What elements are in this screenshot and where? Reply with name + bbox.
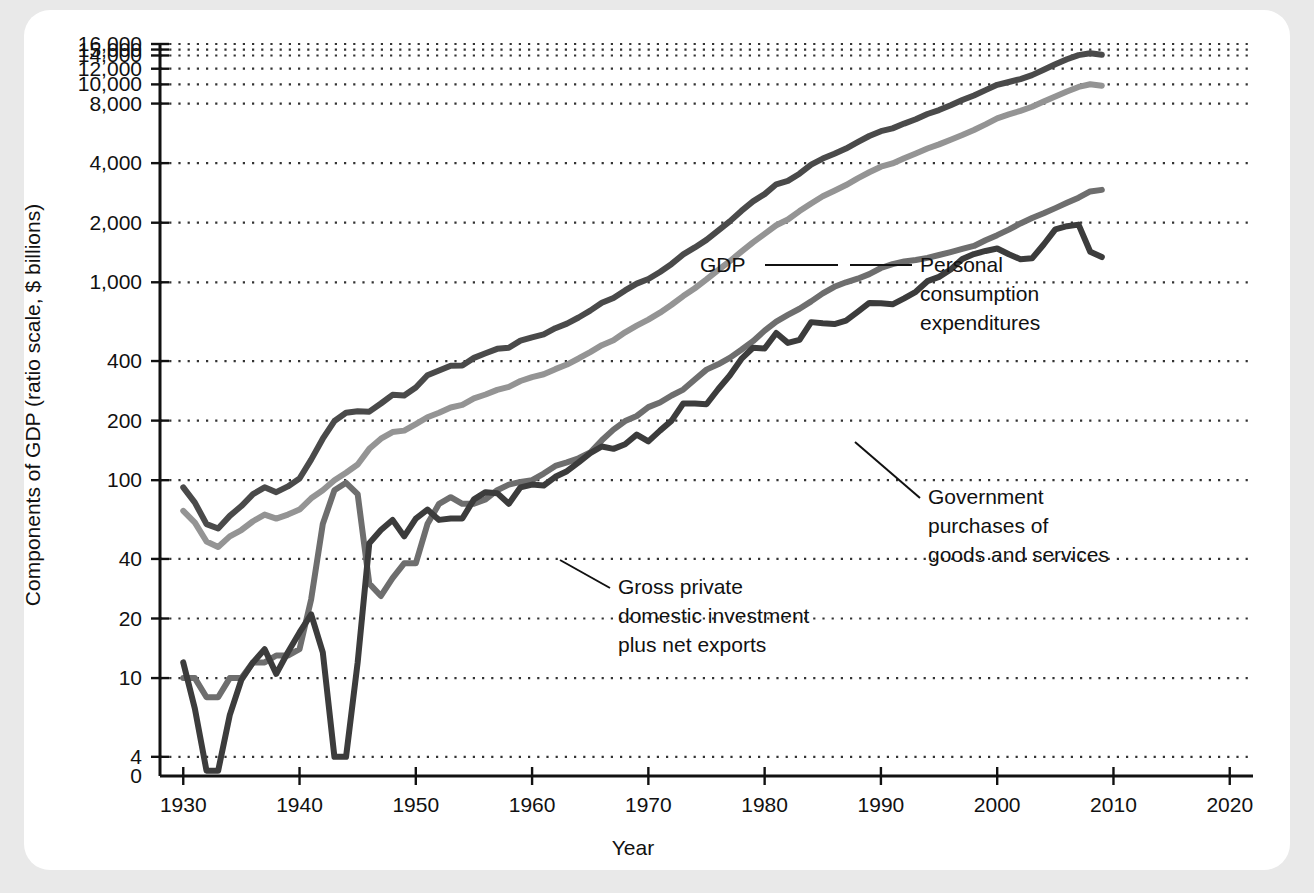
gdp-components-line-chart: 041020401002004001,0002,0004,0008,00010,… [0,0,1314,893]
y-axis-tick-label: 4,000 [89,151,142,174]
x-axis-tick-label: 1990 [858,793,905,816]
chart-container: 041020401002004001,0002,0004,0008,00010,… [0,0,1314,893]
annotation-label-government: Governmentpurchases ofgoods and services [928,485,1109,566]
y-axis-tick-label: 20 [119,607,142,630]
x-axis-tick-label: 1960 [509,793,556,816]
annotation-label-gdp: GDP [700,253,746,276]
x-axis-tick-label: 2020 [1206,793,1253,816]
y-axis-tick-label: 40 [119,547,142,570]
x-axis-tick-label: 1930 [160,793,207,816]
data-series-group [183,53,1102,771]
y-axis-ticks-group: 041020401002004001,0002,0004,0008,00010,… [78,32,169,787]
y-axis-tick-label: 100 [107,468,142,491]
y-axis-tick-label: 16,000 [78,32,142,55]
y-axis-tick-label: 10 [119,666,142,689]
annotation-label-pce: Personalconsumptionexpenditures [920,253,1040,334]
y-axis-tick-label: 1,000 [89,270,142,293]
y-axis-tick-label: 200 [107,409,142,432]
y-axis-title: Components of GDP (ratio scale, $ billio… [21,204,44,606]
x-axis-ticks-group: 1930194019501960197019801990200020102020 [160,767,1253,816]
y-axis-tick-label: 4 [130,745,142,768]
x-axis-tick-label: 1940 [276,793,323,816]
x-axis-tick-label: 2000 [974,793,1021,816]
x-axis-tick-label: 1950 [392,793,439,816]
annotation-leader-line-government [855,442,920,498]
annotations-group: GDPPersonalconsumptionexpendituresGovern… [560,253,1109,656]
x-axis-title: Year [612,836,654,859]
x-axis-tick-label: 1980 [741,793,788,816]
y-axis-tick-label: 400 [107,349,142,372]
x-axis-tick-label: 2010 [1090,793,1137,816]
y-axis-tick-label: 2,000 [89,211,142,234]
annotation-label-investment: Gross privatedomestic investmentplus net… [618,575,810,656]
x-axis-tick-label: 1970 [625,793,672,816]
annotation-leader-line-investment [560,560,610,588]
